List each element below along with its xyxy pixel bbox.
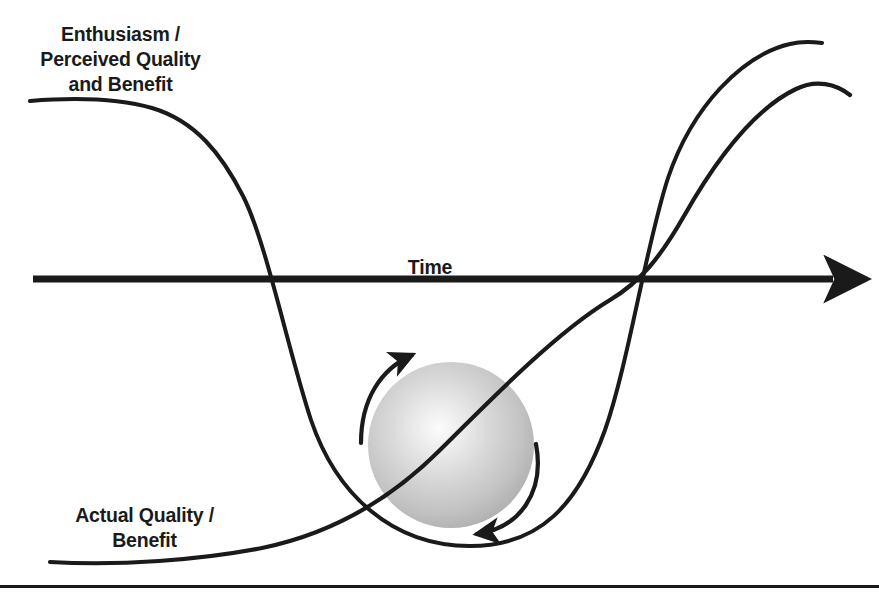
time-axis-label: Time (370, 255, 490, 280)
rolling-sphere (368, 362, 534, 528)
diagram-canvas: Enthusiasm / Perceived Quality and Benef… (0, 0, 879, 599)
enthusiasm-axis-label: Enthusiasm / Perceived Quality and Benef… (18, 22, 223, 97)
actual-quality-label: Actual Quality / Benefit (42, 503, 247, 553)
